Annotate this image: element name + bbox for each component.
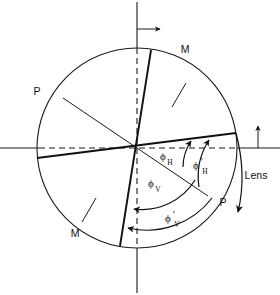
phi-v-arc [134,180,195,210]
label-p-lower-right: P [219,196,226,208]
label-phi-v-symbol: ϕ [148,177,154,189]
label-phi-v-prime-mark: ' [173,209,175,220]
label-phi-v: ϕ V [148,177,161,194]
label-phi-h-subscript: H [167,158,173,167]
optical-angle-diagram: M M P P Lens ϕ H ϕ ' H ϕ V ϕ ' V [0,0,280,295]
label-phi-h-symbol: ϕ [160,150,166,162]
label-lens: Lens [245,169,268,181]
label-phi-h-prime: ϕ ' H [193,156,208,176]
mirror-tick-bottom-left [82,198,96,222]
label-p-upper-left: P [33,85,40,97]
label-phi-v-prime-subscript: V [174,220,180,229]
label-phi-v-subscript: V [155,185,161,194]
phi-h-arc [183,141,191,167]
diagram-canvas: M M P P Lens ϕ H ϕ ' H ϕ V ϕ ' V [0,0,280,295]
label-phi-h-prime-subscript: H [202,167,208,176]
phi-h-prime-arc [198,140,209,187]
label-phi-h-prime-symbol: ϕ [193,159,199,171]
label-m-top-right: M [181,43,190,55]
mirror-tick-top-right [172,83,186,107]
label-m-bottom-left: M [71,227,80,239]
label-phi-v-prime-symbol: ϕ [165,212,171,224]
label-phi-h-prime-mark: ' [201,156,203,167]
polarizer-diagonal-line [63,98,208,196]
